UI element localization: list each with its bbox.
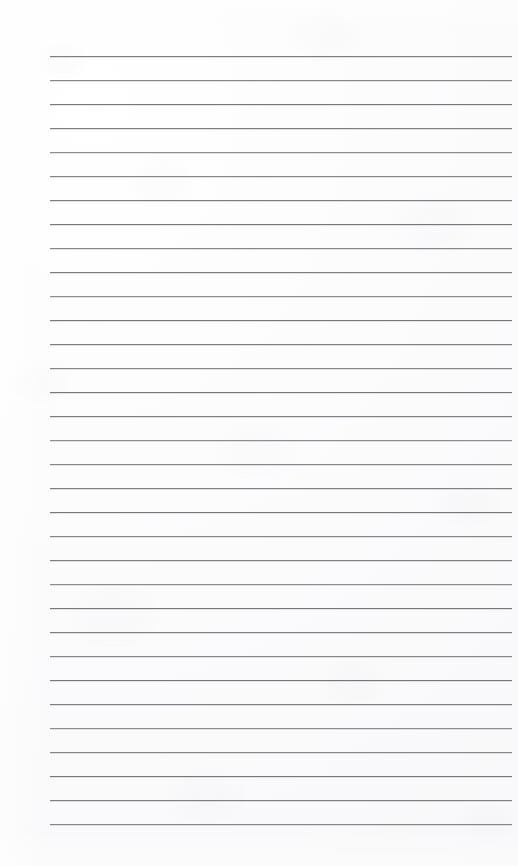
ruled-line bbox=[50, 80, 512, 81]
ruled-line bbox=[50, 680, 512, 681]
ruled-line bbox=[50, 656, 512, 657]
ruled-line bbox=[50, 200, 512, 201]
ruled-line bbox=[50, 704, 512, 705]
ruled-line bbox=[50, 488, 512, 489]
ruled-line bbox=[50, 320, 512, 321]
ruled-line bbox=[50, 152, 512, 153]
ruled-line bbox=[50, 728, 512, 729]
ruled-line bbox=[50, 56, 512, 57]
ruled-line bbox=[50, 128, 512, 129]
ruled-lines-group bbox=[0, 0, 518, 866]
scanned-page bbox=[0, 0, 518, 866]
ruled-line bbox=[50, 824, 512, 825]
ruled-line bbox=[50, 416, 512, 417]
ruled-line bbox=[50, 272, 512, 273]
ruled-line bbox=[50, 296, 512, 297]
ruled-line bbox=[50, 344, 512, 345]
ruled-line bbox=[50, 608, 512, 609]
ruled-line bbox=[50, 224, 512, 225]
ruled-line bbox=[50, 512, 512, 513]
ruled-line bbox=[50, 392, 512, 393]
ruled-line bbox=[50, 464, 512, 465]
ruled-line bbox=[50, 536, 512, 537]
ruled-line bbox=[50, 584, 512, 585]
ruled-line bbox=[50, 752, 512, 753]
ruled-line bbox=[50, 776, 512, 777]
ruled-line bbox=[50, 176, 512, 177]
ruled-line bbox=[50, 248, 512, 249]
ruled-line bbox=[50, 368, 512, 369]
ruled-line bbox=[50, 800, 512, 801]
ruled-line bbox=[50, 104, 512, 105]
ruled-line bbox=[50, 632, 512, 633]
ruled-line bbox=[50, 560, 512, 561]
ruled-line bbox=[50, 440, 512, 441]
